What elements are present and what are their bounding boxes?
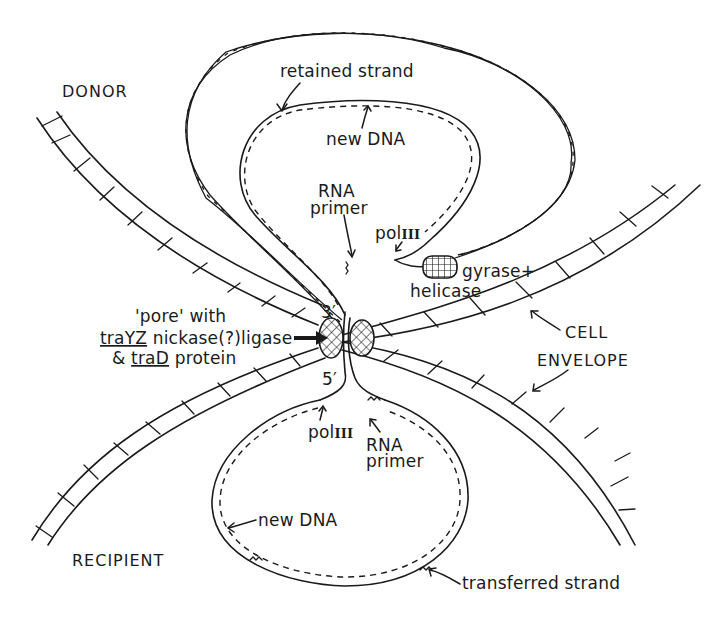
pol-iii-top-numeral: III xyxy=(402,227,421,242)
gyrase-helicase-complex xyxy=(423,256,457,278)
pore-label-line3-prefix: & xyxy=(112,348,131,368)
pore-label-line1: 'pore' with xyxy=(135,306,226,326)
pore-label-line3-rest: protein xyxy=(169,348,236,368)
pol-iii-bottom-prefix: pol xyxy=(308,422,335,442)
pol-iii-top-label: polIII xyxy=(375,223,420,243)
rna-primer-top-label-line2: primer xyxy=(310,198,368,218)
new-dna-bottom-label: new DNA xyxy=(258,510,338,530)
pore-label-line2: traYZ nickase(?)ligase xyxy=(100,328,292,348)
new-dna-top-label: new DNA xyxy=(326,129,406,149)
donor-label: DONOR xyxy=(62,82,128,101)
pol-iii-bottom-numeral: III xyxy=(335,426,354,441)
gene-trad: traD xyxy=(131,348,169,368)
cell-label: CELL xyxy=(565,323,608,342)
gyrase-label: gyrase+ xyxy=(462,261,535,281)
pore-protein-right xyxy=(350,320,374,356)
retained-strand-label: retained strand xyxy=(280,61,414,81)
helicase-label: helicase xyxy=(410,281,481,301)
five-prime-label: 5′ xyxy=(322,369,337,389)
envelope-label: ENVELOPE xyxy=(537,351,629,370)
pol-iii-bottom-label: polIII xyxy=(308,422,353,442)
rna-primer-bottom-label-line2: primer xyxy=(366,451,424,471)
conjugation-diagram: DONOR RECIPIENT retained strand new DNA … xyxy=(0,0,726,619)
gene-trayz: traYZ xyxy=(100,328,147,348)
transferred-strand-label: transferred strand xyxy=(462,573,620,593)
donor-envelope-left xyxy=(37,112,322,325)
pore-label-line3: & traD protein xyxy=(112,348,236,368)
three-prime-label: 3′ xyxy=(321,302,336,322)
recipient-label: RECIPIENT xyxy=(72,551,164,570)
pore-label-line2-rest: nickase(?)ligase xyxy=(147,328,292,348)
pol-iii-top-prefix: pol xyxy=(375,223,402,243)
